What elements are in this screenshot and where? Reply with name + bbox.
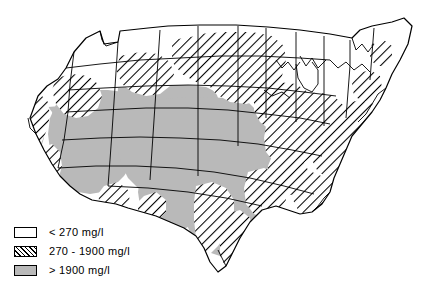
legend-item-high: > 1900 mg/l: [14, 261, 184, 280]
legend-item-low: < 270 mg/l: [14, 223, 184, 242]
legend-item-mid: 270 - 1900 mg/l: [14, 242, 184, 261]
legend: < 270 mg/l 270 - 1900 mg/l > 1900 mg/l: [14, 223, 184, 280]
legend-label-high: > 1900 mg/l: [49, 265, 110, 276]
gray-box-icon: [14, 265, 37, 276]
legend-label-low: < 270 mg/l: [49, 227, 104, 238]
white-box-icon: [14, 227, 37, 238]
hatched-box-icon: [14, 246, 37, 257]
map-figure: < 270 mg/l 270 - 1900 mg/l > 1900 mg/l: [0, 0, 442, 287]
legend-label-mid: 270 - 1900 mg/l: [49, 246, 130, 257]
